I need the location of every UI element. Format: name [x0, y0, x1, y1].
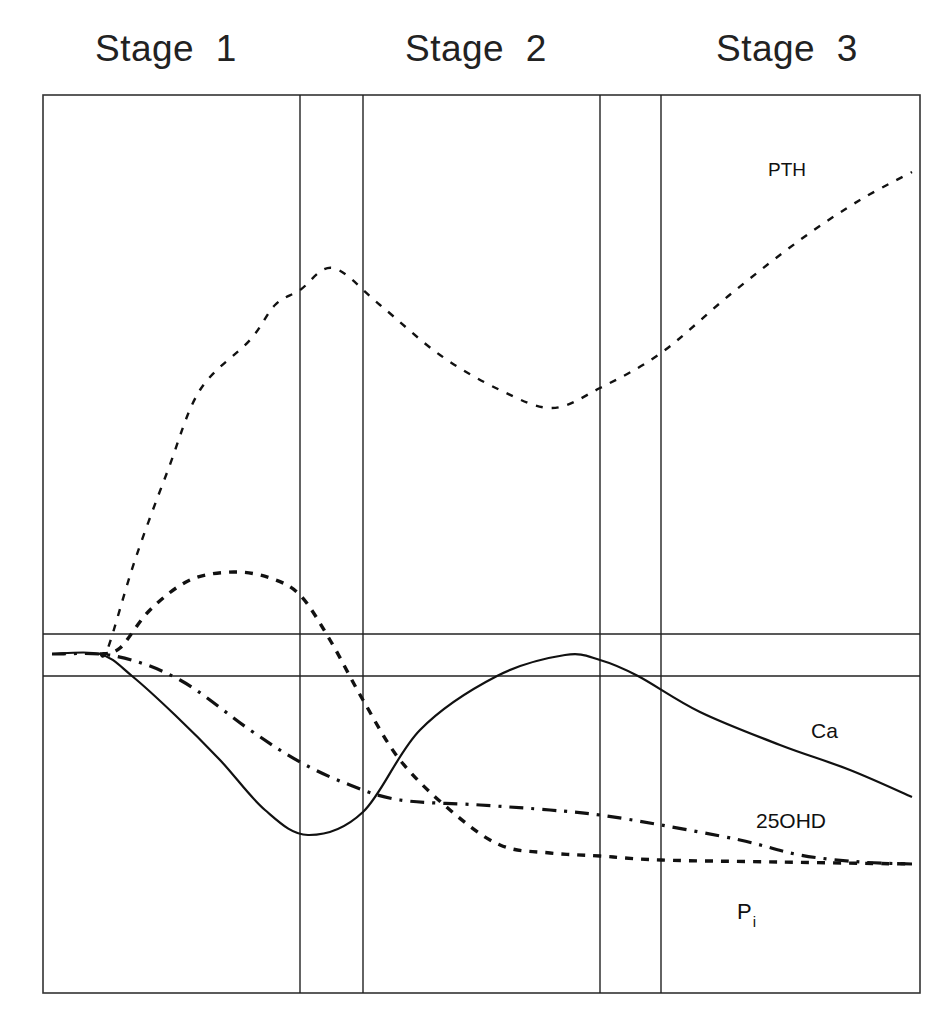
ca-label: Ca [811, 719, 838, 742]
diagram-frame [43, 95, 920, 993]
frame-border [43, 95, 920, 993]
pth-curve [100, 172, 912, 657]
pth-label: PTH [768, 159, 806, 180]
pi-label: Pi [737, 899, 756, 930]
25ohd-label: 25OHD [756, 809, 826, 832]
stage-diagram: PTH Ca 25OHD Pi [0, 0, 952, 1027]
pi-label-subscript: i [753, 913, 756, 930]
pi-label-main: P [737, 899, 752, 924]
curves [52, 172, 912, 864]
